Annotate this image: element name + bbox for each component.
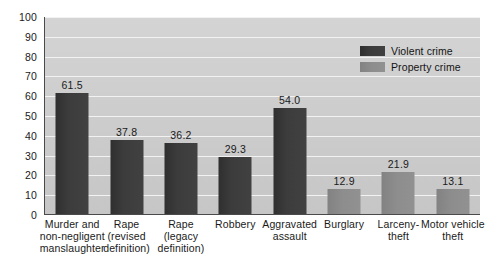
y-axis-tick-label: 0 — [31, 209, 37, 221]
legend-label: Property crime — [391, 61, 461, 73]
bar-slot: 36.2 — [154, 17, 208, 215]
bar-value-label: 54.0 — [279, 94, 300, 106]
chart-legend: Violent crimeProperty crime — [360, 45, 461, 73]
y-axis-tick-label: 90 — [25, 31, 37, 43]
bar-value-label: 37.8 — [116, 126, 137, 138]
category-label-line: definition) — [148, 243, 214, 255]
legend-item[interactable]: Property crime — [360, 61, 461, 73]
y-axis-tick-label: 50 — [25, 110, 37, 122]
bar[interactable] — [273, 108, 306, 215]
y-axis-tick-label: 100 — [19, 11, 37, 23]
bar[interactable] — [56, 93, 89, 215]
bar[interactable] — [164, 143, 197, 215]
legend-label: Violent crime — [391, 45, 453, 57]
y-axis-tick-label: 30 — [25, 150, 37, 162]
legend-item[interactable]: Violent crime — [360, 45, 461, 57]
x-axis-line — [45, 214, 480, 215]
bar[interactable] — [382, 172, 415, 215]
bar-slot: 61.5 — [45, 17, 99, 215]
x-axis-category-labels: Murder andnon-negligentmanslaughterRape(… — [45, 219, 480, 269]
bar-value-label: 21.9 — [388, 158, 409, 170]
y-axis-tick-label: 60 — [25, 90, 37, 102]
bar-slot: 37.8 — [99, 17, 153, 215]
x-axis-category-label: Motor vehicletheft — [420, 219, 486, 243]
bar[interactable] — [219, 157, 252, 215]
bar-chart: 0102030405060708090100 61.537.836.229.35… — [0, 0, 497, 271]
legend-swatch-icon — [360, 62, 385, 72]
y-axis-tick-label: 10 — [25, 189, 37, 201]
category-label-line: theft — [420, 231, 486, 243]
y-axis-tick-label: 40 — [25, 130, 37, 142]
bar[interactable] — [110, 140, 143, 215]
bar[interactable] — [328, 189, 361, 215]
y-axis-line — [44, 17, 45, 215]
bar-value-label: 61.5 — [62, 79, 83, 91]
legend-swatch-icon — [360, 46, 385, 56]
bar-value-label: 36.2 — [170, 129, 191, 141]
bar-slot: 29.3 — [208, 17, 262, 215]
y-axis: 0102030405060708090100 — [0, 17, 42, 215]
category-label-line: (legacy — [148, 231, 214, 243]
bar-slot: 54.0 — [263, 17, 317, 215]
bar[interactable] — [436, 189, 469, 215]
bar-value-label: 29.3 — [225, 143, 246, 155]
bar-value-label: 12.9 — [333, 175, 354, 187]
bar-value-label: 13.1 — [442, 175, 463, 187]
category-label-line: assault — [257, 231, 323, 243]
y-axis-tick-label: 70 — [25, 70, 37, 82]
y-axis-tick-label: 20 — [25, 169, 37, 181]
y-axis-tick-label: 80 — [25, 51, 37, 63]
